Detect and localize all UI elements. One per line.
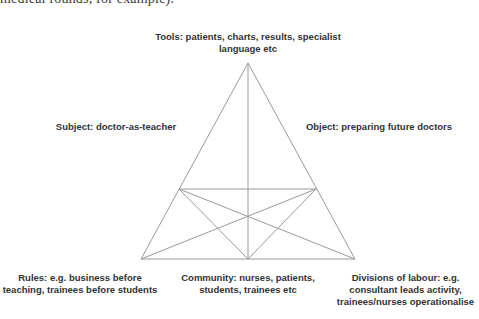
subject-to-community	[179, 189, 248, 259]
subject-to-division	[179, 189, 355, 259]
rules-label-line-1: Rules: e.g. business before	[0, 272, 160, 284]
community-label-line-2: students, trainees etc	[180, 284, 316, 296]
division-label-line-2: consultant leads activity,	[332, 284, 479, 296]
tools-label: Tools: patients, charts, results, specia…	[150, 31, 346, 55]
object-label-line-1: Object: preparing future doctors	[299, 121, 459, 133]
subject-label: Subject: doctor-as-teacher	[52, 121, 180, 133]
triangle-left-edge	[141, 63, 248, 259]
subject-label-line-1: Subject: doctor-as-teacher	[52, 121, 180, 133]
division-label-line-3: trainees/nurses operationalise	[332, 296, 479, 308]
object-to-community	[248, 189, 316, 259]
community-label-line-1: Community: nurses, patients,	[180, 272, 316, 284]
tools-label-line-2: language etc	[150, 43, 346, 55]
rules-label: Rules: e.g. business before teaching, tr…	[0, 272, 160, 296]
object-label: Object: preparing future doctors	[299, 121, 459, 133]
object-to-rules	[141, 189, 316, 259]
division-of-labour-label: Divisions of labour: e.g. consultant lea…	[332, 272, 479, 308]
community-label: Community: nurses, patients, students, t…	[180, 272, 316, 296]
tools-label-line-1: Tools: patients, charts, results, specia…	[150, 31, 346, 43]
rules-label-line-2: teaching, trainees before students	[0, 284, 160, 296]
division-label-line-1: Divisions of labour: e.g.	[332, 272, 479, 284]
triangle-right-edge	[248, 63, 355, 259]
